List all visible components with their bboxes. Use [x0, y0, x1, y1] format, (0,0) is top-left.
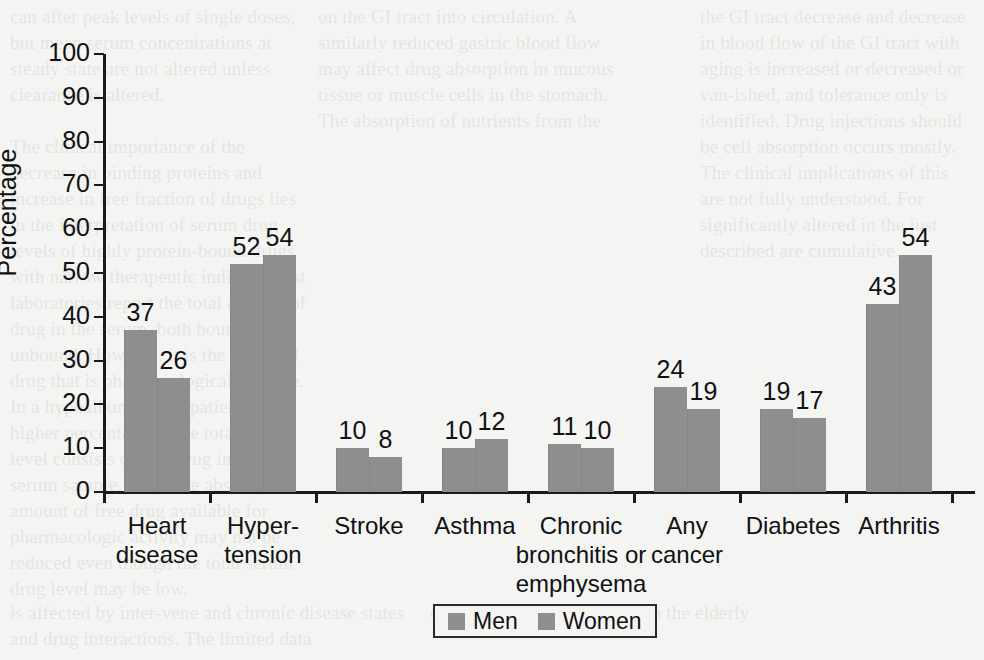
bar-chart: Percentage 0102030405060708090100 372652…	[0, 0, 984, 660]
x-tick-2	[315, 491, 318, 503]
bar-women-5	[687, 409, 720, 492]
bar-value-women-1: 54	[257, 225, 302, 250]
legend-item-men: Men	[448, 610, 518, 633]
category-label-line: emphysema	[506, 569, 656, 598]
y-tick-label-100: 100	[20, 40, 90, 65]
chart-legend: Men Women	[433, 604, 657, 638]
category-label-line: cancer	[612, 540, 762, 569]
category-label-line: tension	[188, 540, 338, 569]
bar-women-2	[369, 457, 402, 492]
y-tick-label-10: 10	[20, 434, 90, 459]
y-tick-label-50: 50	[20, 259, 90, 284]
category-label-7: Arthritis	[824, 511, 974, 540]
y-tick-label-60: 60	[20, 215, 90, 240]
bar-value-men-0: 37	[118, 300, 163, 325]
x-tick-end	[951, 491, 954, 503]
bar-women-4	[581, 448, 614, 492]
bar-value-women-2: 8	[363, 427, 408, 452]
bar-women-6	[793, 418, 826, 492]
legend-swatch-men	[448, 613, 465, 630]
bar-value-women-6: 17	[787, 388, 832, 413]
bar-men-4	[548, 444, 581, 492]
legend-label-women: Women	[563, 610, 642, 633]
bar-men-3	[442, 448, 475, 492]
x-tick-7	[845, 491, 848, 503]
plot-area: 3726525410810121110241919174354	[103, 54, 972, 492]
bar-value-women-4: 10	[575, 418, 620, 443]
bar-women-3	[475, 439, 508, 492]
bar-men-1	[230, 264, 263, 492]
bar-women-7	[899, 255, 932, 492]
y-tick-label-80: 80	[20, 128, 90, 153]
legend-swatch-women	[538, 613, 555, 630]
y-tick-label-20: 20	[20, 390, 90, 415]
bar-value-women-5: 19	[681, 379, 726, 404]
bar-women-0	[157, 378, 190, 492]
y-tick-label-30: 30	[20, 347, 90, 372]
x-tick-0	[103, 491, 106, 503]
bar-men-7	[866, 304, 899, 492]
y-tick-label-70: 70	[20, 171, 90, 196]
x-tick-4	[527, 491, 530, 503]
y-tick-label-0: 0	[20, 478, 90, 503]
legend-item-women: Women	[538, 610, 642, 633]
x-tick-5	[633, 491, 636, 503]
bar-value-women-0: 26	[151, 348, 196, 373]
bar-men-2	[336, 448, 369, 492]
bar-women-1	[263, 255, 296, 492]
bar-value-women-7: 54	[893, 225, 938, 250]
bar-value-women-3: 12	[469, 409, 514, 434]
x-tick-3	[421, 491, 424, 503]
category-label-line: Arthritis	[824, 511, 974, 540]
y-tick-label-40: 40	[20, 303, 90, 328]
figure-page: can after peak levels of single doses, b…	[0, 0, 984, 660]
legend-label-men: Men	[473, 610, 518, 633]
x-tick-1	[209, 491, 212, 503]
y-axis-title: Percentage	[0, 48, 22, 378]
bar-men-6	[760, 409, 793, 492]
x-tick-6	[739, 491, 742, 503]
y-tick-label-90: 90	[20, 84, 90, 109]
